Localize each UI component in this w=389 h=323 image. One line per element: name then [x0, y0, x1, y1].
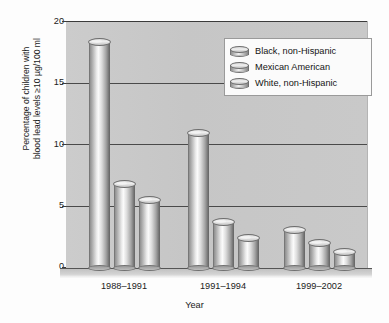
bar-1988-1991-mexican-american[interactable]	[114, 184, 135, 268]
y-tick-20: 20	[42, 16, 64, 26]
bar-1988-1991-black-non-hispanic[interactable]	[89, 42, 110, 268]
legend: Black, non-Hispanic Mexican American Whi…	[224, 38, 372, 96]
x-axis-label: Year	[0, 300, 389, 310]
bar-cap	[237, 234, 260, 242]
legend-label: Mexican American	[255, 62, 330, 72]
y-tick-15: 15	[42, 77, 64, 87]
bar-base	[187, 265, 210, 271]
gridline-20	[66, 21, 367, 22]
bar-body	[114, 184, 135, 268]
gridline-5	[66, 206, 367, 207]
bar-1999-2002-black-non-hispanic[interactable]	[284, 230, 305, 268]
bar-1991-1994-white-non-hispanic[interactable]	[238, 238, 259, 268]
bar-base	[333, 265, 356, 271]
bar-cap	[138, 196, 161, 204]
x-tick-1999-2002: 1999–2002	[264, 281, 374, 291]
legend-cylinder-icon	[230, 62, 249, 73]
legend-label: Black, non-Hispanic	[255, 46, 336, 56]
legend-cylinder-icon	[230, 46, 249, 57]
bar-cap	[283, 226, 306, 234]
legend-cylinder-icon	[230, 78, 249, 89]
legend-item-white-non-hispanic[interactable]: White, non-Hispanic	[230, 75, 366, 91]
bar-body	[89, 42, 110, 268]
y-tick-5: 5	[42, 200, 64, 210]
legend-item-black-non-hispanic[interactable]: Black, non-Hispanic	[230, 43, 366, 59]
bar-base	[138, 265, 161, 271]
bar-body	[238, 238, 259, 268]
bar-cap	[88, 38, 111, 46]
bar-cap	[212, 218, 235, 226]
y-tickmark-0	[62, 267, 66, 268]
gridline-10	[66, 144, 367, 145]
y-tickmark-5	[62, 206, 66, 207]
bar-base	[283, 265, 306, 271]
bar-base	[88, 265, 111, 271]
legend-item-mexican-american[interactable]: Mexican American	[230, 59, 366, 75]
bar-body	[139, 200, 160, 268]
bar-base	[113, 265, 136, 271]
bar-base	[212, 265, 235, 271]
bar-body	[188, 133, 209, 268]
y-tickmark-20	[62, 21, 66, 22]
bar-body	[213, 222, 234, 268]
bar-cap	[308, 239, 331, 247]
bar-base	[308, 265, 331, 271]
y-tickmark-10	[62, 144, 66, 145]
y-axis-label-line-1: Percentage of children with	[21, 4, 32, 194]
bar-base	[237, 265, 260, 271]
x-tick-1988-1991: 1988–1991	[69, 281, 179, 291]
y-tick-10: 10	[42, 139, 64, 149]
legend-label: White, non-Hispanic	[255, 78, 337, 88]
bar-1988-1991-white-non-hispanic[interactable]	[139, 200, 160, 268]
bar-1991-1994-black-non-hispanic[interactable]	[188, 133, 209, 268]
bar-cap	[113, 180, 136, 188]
bar-cap	[333, 248, 356, 256]
bar-1999-2002-white-non-hispanic[interactable]	[334, 252, 355, 268]
y-tickmark-15	[62, 83, 66, 84]
x-tick-1991-1994: 1991–1994	[168, 281, 278, 291]
bar-1999-2002-mexican-american[interactable]	[309, 243, 330, 268]
bar-cap	[187, 129, 210, 137]
bar-body	[284, 230, 305, 268]
chart-figure: Percentage of children with blood lead l…	[0, 0, 389, 323]
bar-1991-1994-mexican-american[interactable]	[213, 222, 234, 268]
